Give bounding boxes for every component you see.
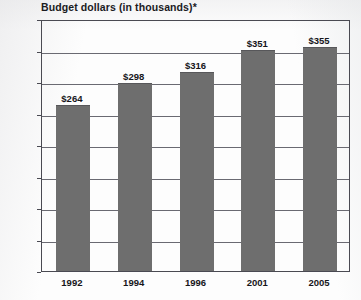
bar-value-label: $316 [185, 60, 206, 71]
x-axis-tick-label: 2005 [309, 277, 330, 288]
bar[interactable] [241, 50, 275, 271]
x-axis-tick-label: 1994 [123, 277, 144, 288]
bar-value-label: $355 [309, 35, 330, 46]
bar[interactable] [56, 105, 90, 271]
x-axis-tick-label: 1996 [185, 277, 206, 288]
bar-chart: Budget dollars (in thousands)* $0$50$100… [0, 0, 361, 300]
bar[interactable] [118, 83, 152, 271]
bar-value-label: $264 [61, 93, 82, 104]
x-axis-tick-label: 2001 [247, 277, 268, 288]
x-axis-tick-label: 1992 [61, 277, 82, 288]
chart-title: Budget dollars (in thousands)* [41, 1, 197, 13]
y-axis-tick-mark [37, 272, 41, 273]
bar-value-label: $351 [247, 38, 268, 49]
bar-value-label: $298 [123, 71, 144, 82]
plot-area [41, 20, 350, 272]
bar[interactable] [180, 72, 214, 271]
bar[interactable] [303, 47, 337, 271]
